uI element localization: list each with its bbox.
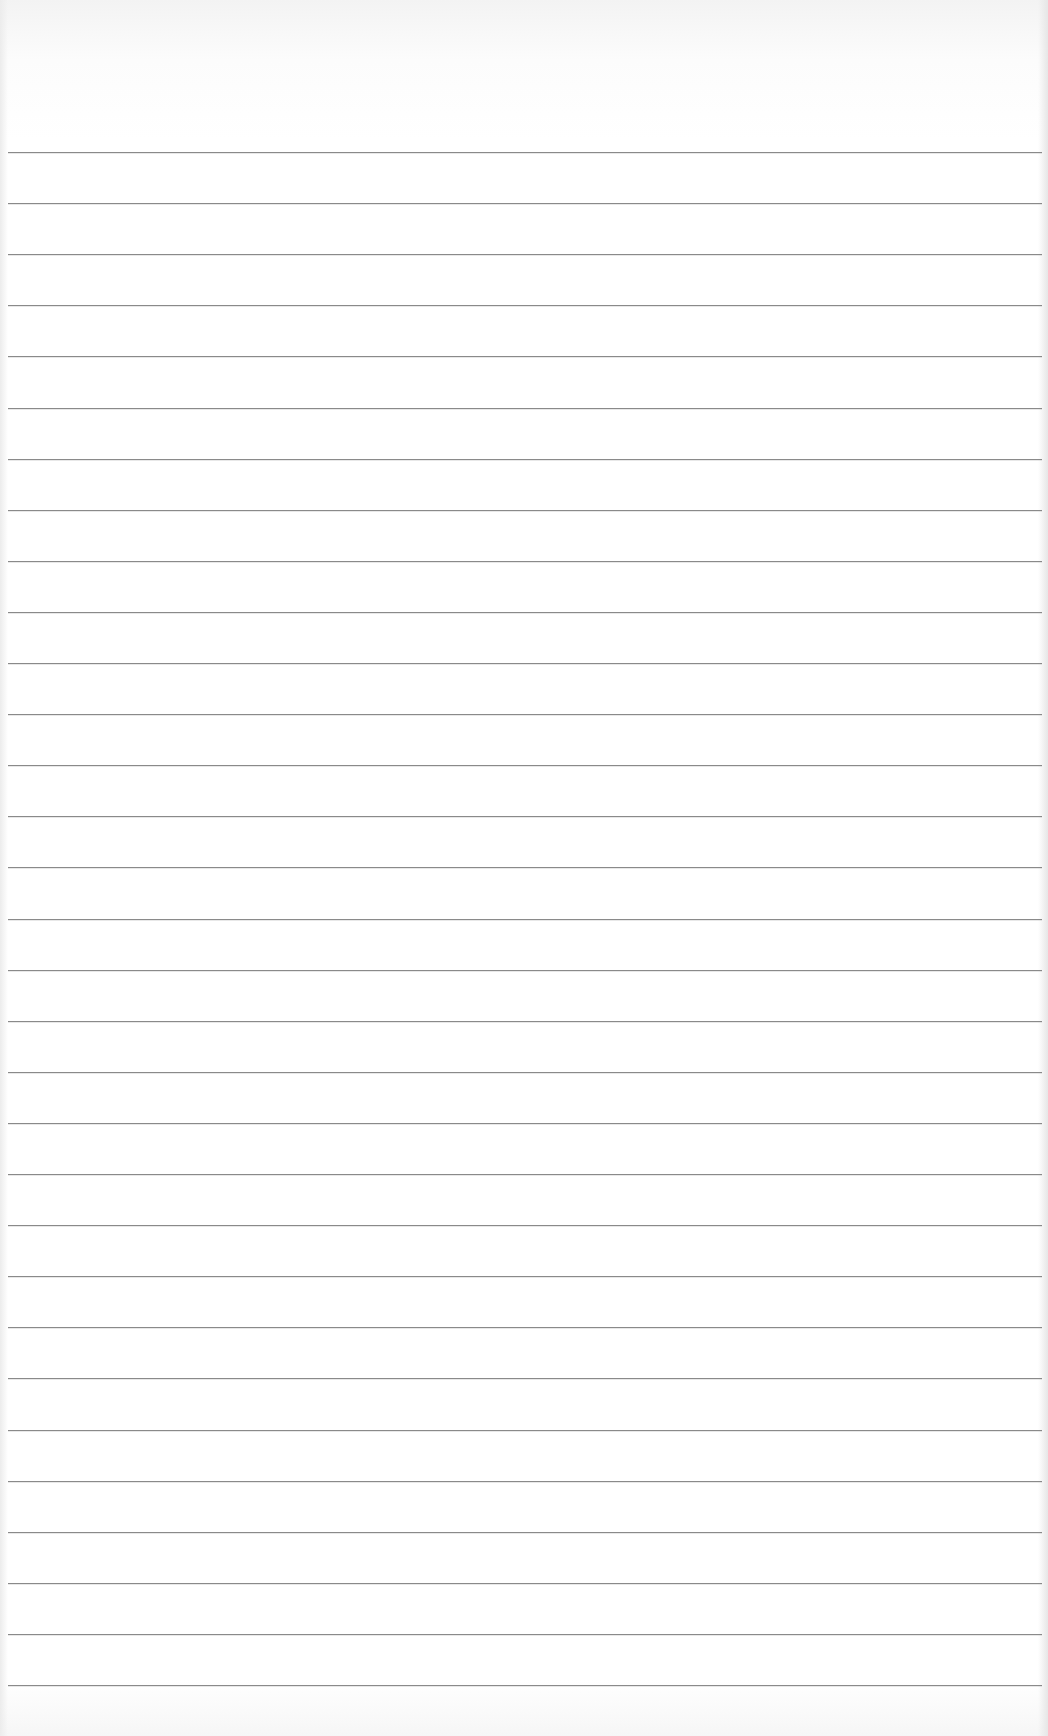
ruled-line	[8, 1634, 1042, 1635]
ruled-line	[8, 305, 1042, 306]
ruled-line	[8, 919, 1042, 920]
ruled-line	[8, 612, 1042, 613]
ruled-line	[8, 867, 1042, 868]
ruled-line	[8, 1430, 1042, 1431]
ruled-line	[8, 254, 1042, 255]
ruled-line	[8, 663, 1042, 664]
ruled-line	[8, 1481, 1042, 1482]
ruled-line	[8, 1021, 1042, 1022]
ruled-line	[8, 459, 1042, 460]
lined-paper-sheet	[0, 0, 1048, 1736]
paper-left-edge	[0, 0, 8, 1736]
ruled-line	[8, 714, 1042, 715]
ruled-line	[8, 561, 1042, 562]
ruled-line	[8, 765, 1042, 766]
ruled-line	[8, 1685, 1042, 1686]
ruled-line	[8, 408, 1042, 409]
ruled-line	[8, 203, 1042, 204]
ruled-line	[8, 1174, 1042, 1175]
ruled-line	[8, 1378, 1042, 1379]
ruled-line	[8, 152, 1042, 153]
ruled-line	[8, 970, 1042, 971]
ruled-line	[8, 1225, 1042, 1226]
ruled-line	[8, 1327, 1042, 1328]
ruled-line	[8, 356, 1042, 357]
ruled-line	[8, 510, 1042, 511]
ruled-line	[8, 1072, 1042, 1073]
ruled-line	[8, 1276, 1042, 1277]
paper-right-edge	[1038, 0, 1048, 1736]
ruled-line	[8, 1583, 1042, 1584]
ruled-line	[8, 1123, 1042, 1124]
ruled-line	[8, 816, 1042, 817]
ruled-line	[8, 1532, 1042, 1533]
